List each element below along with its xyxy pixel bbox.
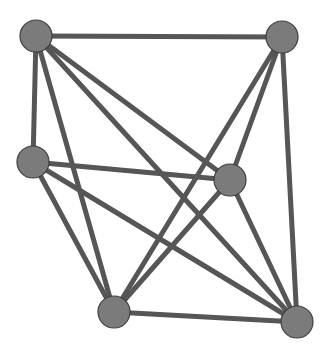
edge-A-D (36, 36, 230, 180)
edge-A-B (36, 36, 282, 37)
edge-B-E (114, 37, 282, 312)
edge-A-C (33, 36, 36, 162)
node-B (266, 21, 298, 53)
node-C (17, 146, 49, 178)
node-F (281, 306, 313, 338)
node-D (214, 164, 246, 196)
graph-diagram (0, 0, 330, 356)
edge-E-F (114, 312, 297, 322)
node-E (98, 296, 130, 328)
edge-B-F (282, 37, 297, 322)
edge-D-E (114, 180, 230, 312)
edges-layer (33, 36, 297, 322)
node-A (20, 20, 52, 52)
